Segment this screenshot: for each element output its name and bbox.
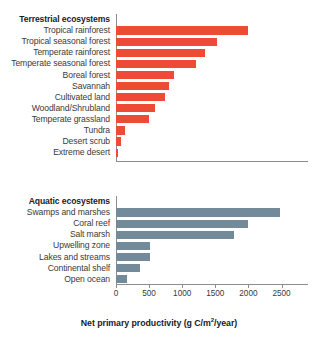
category-label: Tundra (0, 126, 116, 135)
terrestrial-panel: Terrestrial ecosystems Tropical rainfore… (0, 14, 324, 162)
bar-cultivated-land (116, 93, 165, 101)
bar-coral-reef (116, 220, 248, 228)
aquatic-rows: Aquatic ecosystems Swamps and marshes Co… (0, 196, 324, 285)
bar-track (116, 136, 324, 147)
bar-open-ocean (116, 275, 127, 283)
bar-row: Swamps and marshes (0, 207, 324, 218)
bar-track (116, 125, 324, 136)
category-label: Woodland/Shrubland (0, 104, 116, 113)
category-label: Continental shelf (0, 264, 116, 273)
category-label: Temperate seasonal forest (0, 59, 116, 68)
x-axis-title: Net primary productivity (g C/m2/year) (0, 318, 318, 328)
category-label: Cultivated land (0, 93, 116, 102)
terrestrial-rows: Terrestrial ecosystems Tropical rainfore… (0, 14, 324, 158)
category-label: Extreme desert (0, 148, 116, 157)
bar-tropical-rainforest (116, 26, 248, 34)
x-axis-tick (215, 284, 216, 288)
bar-salt-marsh (116, 231, 234, 239)
bar-row: Desert scrub (0, 136, 324, 147)
bar-row: Tropical rainforest (0, 25, 324, 36)
bar-lakes-and-streams (116, 253, 150, 261)
category-label: Open ocean (0, 275, 116, 284)
category-label: Upwelling zone (0, 241, 116, 250)
bar-track (116, 69, 324, 80)
npp-bar-chart-figure: Terrestrial ecosystems Tropical rainfore… (0, 0, 324, 340)
category-label: Tropical seasonal forest (0, 37, 116, 46)
bar-track (116, 103, 324, 114)
bar-tropical-seasonal-forest (116, 38, 217, 46)
bar-row: Upwelling zone (0, 240, 324, 251)
x-axis-tick-label: 2500 (272, 289, 290, 298)
bar-boreal-forest (116, 71, 174, 79)
bar-track (116, 240, 324, 251)
category-label: Coral reef (0, 219, 116, 228)
category-label: Temperate rainforest (0, 48, 116, 57)
x-axis-tick-label: 1000 (173, 289, 191, 298)
bar-row: Extreme desert (0, 147, 324, 158)
category-label: Boreal forest (0, 71, 116, 80)
bar-track (116, 81, 324, 92)
x-axis-tick-label: 1500 (206, 289, 224, 298)
bar-track (116, 92, 324, 103)
category-label: Tropical rainforest (0, 26, 116, 35)
bar-row: Woodland/Shrubland (0, 103, 324, 114)
bar-row: Lakes and streams (0, 251, 324, 262)
x-axis-tick (116, 284, 117, 288)
bar-track (116, 218, 324, 229)
x-axis-tick-label: 500 (142, 289, 156, 298)
bar-row: Temperate seasonal forest (0, 58, 324, 69)
bar-extreme-desert (116, 149, 118, 157)
bar-continental-shelf (116, 264, 140, 272)
x-axis-tick (248, 284, 249, 288)
bar-row: Tropical seasonal forest (0, 36, 324, 47)
bar-track (116, 229, 324, 240)
bar-track (116, 58, 324, 69)
bar-row: Tundra (0, 125, 324, 136)
bar-woodland-shrubland (116, 104, 155, 112)
bar-row: Savannah (0, 81, 324, 92)
x-axis-tick (282, 284, 283, 288)
category-label: Swamps and marshes (0, 208, 116, 217)
bar-row: Continental shelf (0, 263, 324, 274)
aquatic-group-heading-row: Aquatic ecosystems (0, 196, 324, 207)
bar-row: Coral reef (0, 218, 324, 229)
bar-swamps-and-marshes (116, 208, 280, 216)
x-axis-tick (182, 284, 183, 288)
category-label: Desert scrub (0, 137, 116, 146)
aquatic-group-label: Aquatic ecosystems (0, 197, 116, 206)
x-axis-scale: 05001000150020002500 (116, 284, 308, 306)
category-label: Salt marsh (0, 230, 116, 239)
bar-track (116, 47, 324, 58)
bar-track (116, 147, 324, 158)
bar-desert-scrub (116, 137, 121, 145)
terrestrial-group-spacer (116, 14, 324, 25)
terrestrial-baseline-axis (116, 161, 308, 162)
bar-row: Temperate rainforest (0, 47, 324, 58)
bar-temperate-grassland (116, 115, 149, 123)
x-axis-tick-label: 0 (114, 289, 119, 298)
category-label: Lakes and streams (0, 253, 116, 262)
bar-track (116, 114, 324, 125)
aquatic-group-spacer (116, 196, 324, 207)
terrestrial-group-heading-row: Terrestrial ecosystems (0, 14, 324, 25)
bar-row: Boreal forest (0, 69, 324, 80)
x-axis-title-main: Net primary productivity (g C/m (81, 318, 211, 328)
bar-row: Cultivated land (0, 92, 324, 103)
bar-track (116, 36, 324, 47)
aquatic-panel: Aquatic ecosystems Swamps and marshes Co… (0, 196, 324, 296)
x-axis-title-tail: /year) (214, 318, 237, 328)
terrestrial-group-label: Terrestrial ecosystems (0, 15, 116, 24)
bar-track (116, 25, 324, 36)
category-label: Temperate grassland (0, 115, 116, 124)
bar-row: Temperate grassland (0, 114, 324, 125)
bar-temperate-rainforest (116, 49, 205, 57)
bar-track (116, 263, 324, 274)
x-axis-tick (149, 284, 150, 288)
bar-savannah (116, 82, 169, 90)
bar-row: Salt marsh (0, 229, 324, 240)
x-axis-tick-label: 2000 (239, 289, 257, 298)
bar-upwelling-zone (116, 242, 150, 250)
bar-track (116, 251, 324, 262)
bar-tundra (116, 126, 125, 134)
category-label: Savannah (0, 82, 116, 91)
